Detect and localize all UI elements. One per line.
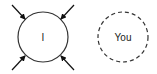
- arrow-bottom-left: [12, 56, 25, 70]
- self-label: I: [42, 32, 45, 43]
- arrow-top-left: [12, 5, 25, 19]
- diagram-canvas: I You: [0, 0, 157, 74]
- other-label: You: [115, 32, 132, 43]
- node-other: You: [98, 12, 148, 62]
- node-self: I: [18, 12, 68, 62]
- arrow-top-right: [61, 5, 74, 19]
- arrow-bottom-right: [61, 56, 74, 70]
